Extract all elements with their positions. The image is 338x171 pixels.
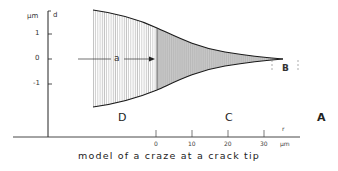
y-axis-unit: µm bbox=[27, 13, 38, 20]
crack-length-label: a bbox=[114, 54, 120, 63]
craze-region bbox=[157, 28, 283, 90]
craze-region-label: C bbox=[225, 112, 233, 123]
y-tick-0: 0 bbox=[35, 55, 39, 62]
panel-label: A bbox=[317, 112, 326, 123]
x-axis-unit: µm bbox=[280, 141, 290, 147]
tip-region-label: B bbox=[282, 64, 289, 73]
x-axis-variable: r bbox=[282, 126, 284, 132]
x-tick-20: 20 bbox=[224, 141, 232, 147]
y-tick-minus-1: -1 bbox=[33, 80, 40, 87]
crack-region-label: D bbox=[118, 112, 126, 123]
x-tick-0: 0 bbox=[154, 141, 158, 147]
figure-caption: model of a craze at a crack tip bbox=[0, 150, 338, 161]
y-tick-1: 1 bbox=[35, 30, 39, 37]
crack-opening-region bbox=[93, 10, 157, 107]
y-axis-variable: d bbox=[53, 12, 57, 19]
x-tick-10: 10 bbox=[188, 141, 196, 147]
x-tick-30: 30 bbox=[260, 141, 268, 147]
